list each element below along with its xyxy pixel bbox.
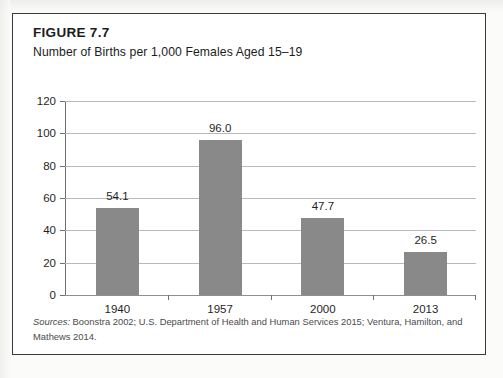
- x-tick-label-2000: 2000: [310, 303, 336, 315]
- y-tick-mark-40: [60, 230, 65, 231]
- source-note: Sources: Boonstra 2002; U.S. Department …: [33, 315, 469, 344]
- gridline-100: [65, 133, 476, 134]
- scan-edge-artifact-left: [0, 0, 10, 378]
- gridline-80: [65, 166, 476, 167]
- y-tick-mark-100: [60, 133, 65, 134]
- x-tick-label-1940: 1940: [105, 303, 131, 315]
- x-tick-label-1957: 1957: [207, 303, 233, 315]
- y-tick-label-0: 0: [50, 289, 56, 301]
- scan-edge-artifact-top: [0, 0, 503, 12]
- y-tick-label-40: 40: [43, 224, 56, 236]
- y-tick-mark-60: [60, 198, 65, 199]
- bar-value-2013: 26.5: [414, 234, 436, 246]
- source-note-lead: Sources:: [33, 316, 70, 327]
- y-tick-label-120: 120: [37, 95, 56, 107]
- bar-chart-plot-area: 020406080100120 54.196.047.726.5 1940195…: [65, 101, 476, 295]
- figure-title: Number of Births per 1,000 Females Aged …: [33, 45, 302, 59]
- y-tick-label-80: 80: [43, 160, 56, 172]
- bar-value-1957: 96.0: [209, 122, 231, 134]
- gridline-120: [65, 101, 476, 102]
- x-tick-mark-2: [271, 295, 272, 300]
- y-tick-mark-0: [60, 295, 65, 296]
- y-tick-mark-80: [60, 166, 65, 167]
- figure-frame: FIGURE 7.7 Number of Births per 1,000 Fe…: [12, 13, 486, 355]
- bar-2000: [301, 218, 344, 295]
- x-tick-mark-3: [373, 295, 374, 300]
- x-tick-mark-1: [168, 295, 169, 300]
- bar-1940: [96, 208, 139, 295]
- source-note-text: Boonstra 2002; U.S. Department of Health…: [33, 316, 462, 342]
- figure-label: FIGURE 7.7: [33, 25, 110, 40]
- bar-value-1940: 54.1: [106, 190, 128, 202]
- y-tick-label-100: 100: [37, 127, 56, 139]
- y-tick-label-60: 60: [43, 192, 56, 204]
- y-tick-mark-120: [60, 101, 65, 102]
- x-tick-mark-end: [475, 295, 476, 300]
- y-tick-label-20: 20: [43, 257, 56, 269]
- x-tick-label-2013: 2013: [413, 303, 439, 315]
- bar-2013: [404, 252, 447, 295]
- bar-1957: [199, 140, 242, 295]
- bar-value-2000: 47.7: [312, 200, 334, 212]
- y-tick-mark-20: [60, 263, 65, 264]
